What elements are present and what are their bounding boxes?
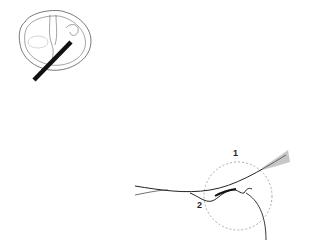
label-1: 1 — [233, 148, 238, 158]
shaded-edge — [262, 150, 290, 170]
descending-strand — [246, 193, 266, 240]
left-lobe — [28, 36, 48, 48]
overview-panel — [19, 10, 91, 80]
lower-membrane — [135, 190, 168, 195]
dashed-circle — [204, 162, 272, 230]
central-fold — [50, 15, 57, 60]
illustration-canvas: 1 2 — [0, 0, 312, 243]
label-2: 2 — [197, 200, 202, 210]
right-loop — [66, 25, 78, 36]
detail-panel: 1 2 — [135, 148, 290, 240]
